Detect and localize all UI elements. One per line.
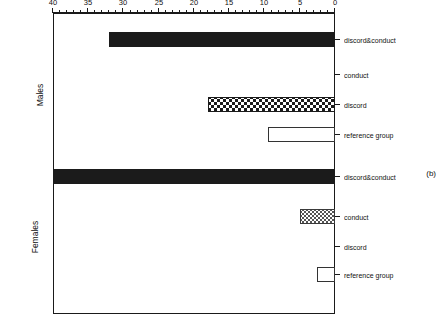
value-tick-minor — [306, 10, 307, 13]
value-tick-minor — [108, 10, 109, 13]
category-tick — [335, 134, 340, 135]
value-tick-major — [193, 8, 194, 13]
value-tick-minor — [242, 10, 243, 13]
figure-caption: (b) — [426, 169, 436, 178]
category-tick — [335, 104, 340, 105]
bar-males-discord — [208, 97, 335, 112]
value-tick-label: 40 — [45, 0, 61, 7]
value-tick-minor — [256, 10, 257, 13]
value-tick-label: 15 — [221, 0, 237, 7]
value-tick-minor — [137, 10, 138, 13]
value-tick-minor — [66, 10, 67, 13]
value-tick-minor — [80, 10, 81, 13]
value-tick-major — [123, 8, 124, 13]
value-tick-minor — [313, 10, 314, 13]
value-tick-minor — [285, 10, 286, 13]
bar-males-reference-group — [268, 127, 335, 142]
category-label: reference group — [344, 132, 393, 139]
value-tick-minor — [207, 10, 208, 13]
value-tick-major — [334, 8, 335, 13]
category-tick — [335, 176, 340, 177]
value-tick-minor — [327, 10, 328, 13]
value-tick-label: 10 — [257, 0, 273, 7]
value-tick-major — [299, 8, 300, 13]
value-tick-label: 20 — [186, 0, 202, 7]
value-tick-minor — [292, 10, 293, 13]
category-label: discord — [344, 244, 367, 251]
category-label: conduct — [344, 214, 369, 221]
bar-females-discord-conduct — [53, 169, 335, 184]
value-tick-minor — [172, 10, 173, 13]
value-tick-minor — [249, 10, 250, 13]
value-tick-minor — [130, 10, 131, 13]
bar-males-discord-conduct — [109, 32, 335, 47]
category-tick — [335, 246, 340, 247]
value-tick-major — [52, 8, 53, 13]
value-tick-minor — [186, 10, 187, 13]
category-tick — [335, 39, 340, 40]
bar-females-conduct — [300, 209, 335, 224]
value-tick-label: 25 — [151, 0, 167, 7]
value-tick-major — [228, 8, 229, 13]
value-tick-minor — [214, 10, 215, 13]
category-label: reference group — [344, 272, 393, 279]
category-tick — [335, 216, 340, 217]
category-label: discord&conduct — [344, 37, 396, 44]
value-tick-label: 5 — [292, 0, 308, 7]
bar-females-reference-group — [317, 267, 335, 282]
value-tick-major — [158, 8, 159, 13]
value-tick-minor — [165, 10, 166, 13]
category-tick — [335, 74, 340, 75]
category-label: discord — [344, 102, 367, 109]
value-tick-label: 35 — [80, 0, 96, 7]
value-tick-minor — [235, 10, 236, 13]
figure-rotation-wrapper: 0510152025303540 Percentage of subjects … — [0, 0, 444, 328]
group-label-females: Females — [30, 221, 40, 254]
value-tick-label: 0 — [327, 0, 343, 7]
value-tick-minor — [200, 10, 201, 13]
value-tick-minor — [94, 10, 95, 13]
value-tick-minor — [151, 10, 152, 13]
value-tick-label: 30 — [116, 0, 132, 7]
category-tick — [335, 274, 340, 275]
value-tick-minor — [278, 10, 279, 13]
plot-area — [53, 13, 335, 314]
value-tick-minor — [320, 10, 321, 13]
group-label-males: Males — [35, 84, 45, 107]
value-tick-minor — [115, 10, 116, 13]
category-label: conduct — [344, 72, 369, 79]
value-tick-minor — [101, 10, 102, 13]
value-tick-major — [87, 8, 88, 13]
value-tick-minor — [271, 10, 272, 13]
value-tick-minor — [221, 10, 222, 13]
value-tick-minor — [179, 10, 180, 13]
value-tick-major — [264, 8, 265, 13]
category-label: discord&conduct — [344, 174, 396, 181]
value-tick-minor — [59, 10, 60, 13]
value-tick-minor — [73, 10, 74, 13]
value-tick-minor — [144, 10, 145, 13]
figure-bar-chart: 0510152025303540 Percentage of subjects … — [0, 0, 444, 328]
